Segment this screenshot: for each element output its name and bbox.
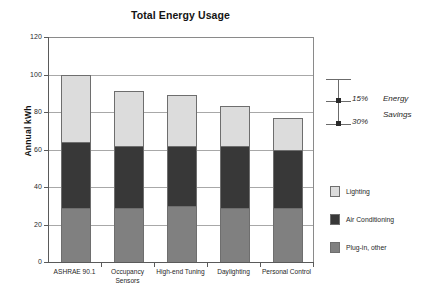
legend-swatch-icon <box>330 214 340 225</box>
bar-column[interactable] <box>167 95 197 262</box>
savings-label-30: 30% <box>352 117 368 126</box>
bar-column[interactable] <box>114 91 144 262</box>
savings-marker-15-icon <box>336 98 341 103</box>
y-tick-label: 60 <box>8 146 42 153</box>
bar-segment[interactable] <box>273 150 303 208</box>
bar-segment[interactable] <box>273 118 303 150</box>
plot-area <box>48 37 314 263</box>
bar-segment[interactable] <box>273 208 303 262</box>
bar-segment[interactable] <box>220 208 250 262</box>
y-tick-label: 80 <box>8 108 42 115</box>
bar-segment[interactable] <box>61 208 91 262</box>
bar-segment[interactable] <box>114 146 144 208</box>
y-tick-label: 40 <box>8 183 42 190</box>
bar-column[interactable] <box>273 118 303 262</box>
savings-title-line2: Savings <box>383 110 411 119</box>
y-tick-label: 100 <box>8 71 42 78</box>
x-tick-mark <box>101 263 102 267</box>
legend-label: Air Conditioning <box>346 216 394 223</box>
savings-label-15: 15% <box>352 94 368 103</box>
bar-segment[interactable] <box>61 75 91 143</box>
bar-segment[interactable] <box>167 95 197 146</box>
x-tick-mark <box>260 263 261 267</box>
bar-segment[interactable] <box>220 106 250 145</box>
y-axis-title: Annual kWh <box>23 91 33 171</box>
bar-segment[interactable] <box>220 146 250 208</box>
chart-title: Total Energy Usage <box>48 9 313 21</box>
bar-segment[interactable] <box>61 142 91 208</box>
bar-segment[interactable] <box>114 208 144 262</box>
x-tick-mark <box>207 263 208 267</box>
legend-swatch-icon <box>330 242 340 253</box>
bar-segment[interactable] <box>167 206 197 262</box>
y-tick-label: 120 <box>8 33 42 40</box>
x-axis-label: Personal Control <box>251 268 323 277</box>
savings-marker-30-icon <box>336 121 341 126</box>
y-tick-label: 0 <box>8 258 42 265</box>
bar-segment[interactable] <box>114 91 144 145</box>
x-tick-mark <box>154 263 155 267</box>
x-axis-label-line: Sensors <box>92 277 164 286</box>
legend-swatch-icon <box>330 186 340 197</box>
y-tick-label: 20 <box>8 221 42 228</box>
bar-column[interactable] <box>61 75 91 263</box>
legend-label: Plug-in, other <box>346 244 386 251</box>
x-tick-mark <box>313 263 314 267</box>
chart-container: Total Energy Usage Annual kWh 0204060801… <box>0 0 427 304</box>
savings-bracket-cap-top <box>326 79 351 80</box>
savings-title-line1: Energy <box>383 94 408 103</box>
bar-column[interactable] <box>220 106 250 262</box>
bar-segment[interactable] <box>167 146 197 206</box>
legend-label: Lighting <box>346 188 370 195</box>
x-axis-label-line: Personal Control <box>251 268 323 277</box>
